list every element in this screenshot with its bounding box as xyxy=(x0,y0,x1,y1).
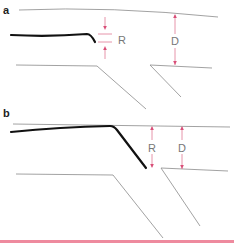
panel-a-r-marker: R xyxy=(98,17,126,59)
panel-a-thick-line xyxy=(11,34,95,42)
panel-a-r-label: R xyxy=(118,34,126,46)
panel-a-lower-left-boundary xyxy=(16,65,146,109)
panel-b-d-marker: D xyxy=(176,126,188,169)
panel-a-lower-right-boundary xyxy=(150,65,212,97)
panel-b-d-label: D xyxy=(178,142,186,154)
panel-b-r-label: R xyxy=(148,142,156,154)
panel-a-d-marker: D xyxy=(170,14,182,65)
panel-a-label: a xyxy=(3,4,10,16)
panel-b-thick-line xyxy=(11,126,146,168)
bottom-rule xyxy=(0,240,234,243)
panel-b-r-marker: R xyxy=(146,126,158,168)
diagram-canvas: a R D b xyxy=(0,0,234,244)
panel-a: a R D xyxy=(3,4,218,109)
panel-b: b R D xyxy=(3,107,230,238)
panel-b-label: b xyxy=(3,107,10,119)
panel-b-lower-right-boundary xyxy=(161,168,228,226)
panel-a-top-boundary xyxy=(19,9,218,17)
panel-a-d-label: D xyxy=(171,35,179,47)
panel-b-top-boundary xyxy=(13,124,230,127)
panel-b-lower-left-boundary xyxy=(16,174,163,238)
